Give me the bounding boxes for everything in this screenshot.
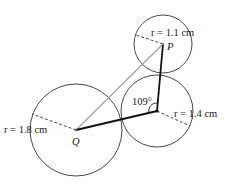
center-dot-r: [155, 109, 158, 112]
segment-r-p: [157, 44, 163, 111]
angle-label: 109°: [132, 96, 152, 107]
point-q-label: Q: [72, 136, 80, 147]
point-p-label: P: [166, 41, 174, 52]
center-dot-p: [162, 43, 165, 46]
segment-q-p: [76, 44, 163, 130]
radius-r-label: r = 1.4 cm: [174, 108, 217, 119]
radius-q-label: r = 1.8 cm: [4, 124, 47, 135]
segment-q-r: [76, 111, 157, 130]
center-dot-q: [75, 129, 78, 132]
circles-diagram: Q P r = 1.8 cm r = 1.1 cm r = 1.4 cm 109…: [0, 0, 232, 185]
radius-p-label: r = 1.1 cm: [151, 27, 194, 38]
